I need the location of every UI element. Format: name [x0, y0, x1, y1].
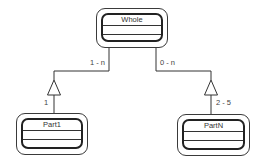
class-whole[interactable]: Whole — [96, 8, 168, 48]
class-part1-box: Part1 — [21, 118, 83, 149]
class-part1[interactable]: Part1 — [16, 113, 88, 155]
aggregation-triangle-icon — [48, 80, 61, 95]
multiplicity-partn: 2 - 5 — [216, 98, 231, 107]
class-partn[interactable]: PartN — [177, 114, 250, 156]
class-name: Part1 — [23, 120, 81, 131]
class-partn-box: PartN — [182, 119, 245, 150]
multiplicity-whole-partn: 0 - n — [160, 58, 175, 67]
class-name: Whole — [103, 15, 161, 26]
aggregation-triangle-icon — [205, 80, 218, 95]
multiplicity-whole-part1: 1 - n — [90, 58, 105, 67]
class-whole-box: Whole — [101, 13, 163, 42]
class-divider — [184, 140, 243, 141]
class-divider — [103, 34, 161, 35]
multiplicity-part1: 1 — [44, 98, 48, 107]
class-name: PartN — [184, 121, 243, 132]
class-divider — [23, 139, 81, 140]
